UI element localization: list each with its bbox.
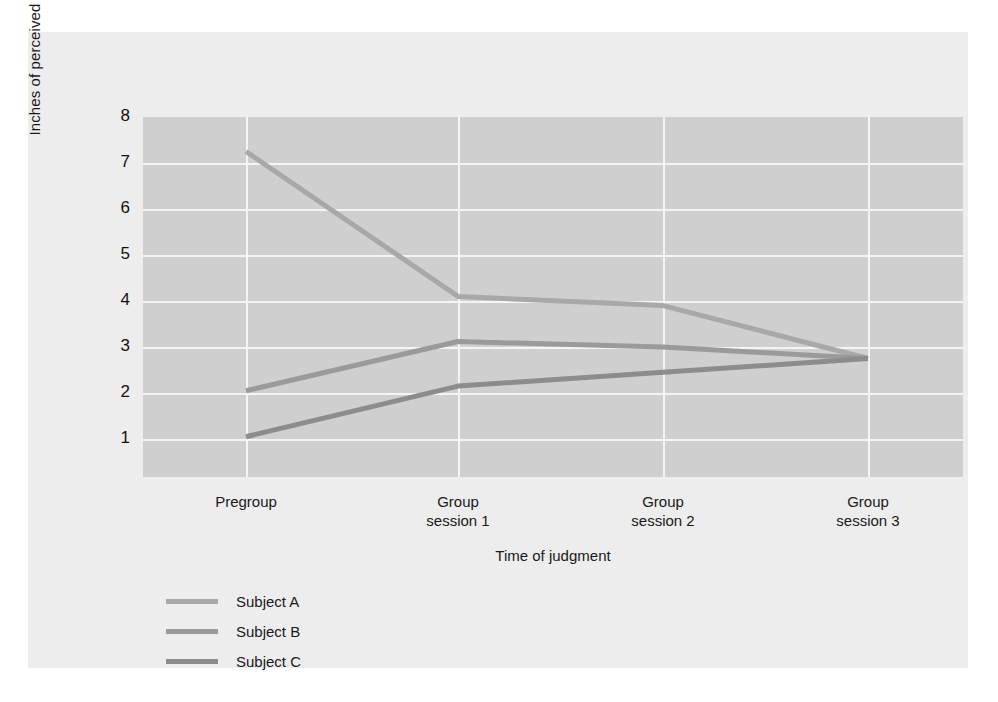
y-axis-tick-label: 8	[90, 106, 130, 126]
x-axis-tick-label-line2: session 1	[358, 511, 558, 530]
x-axis-tick-label-line1: Pregroup	[146, 492, 346, 511]
chart-legend: Subject ASubject BSubject C	[166, 586, 301, 676]
x-axis-tick-label: Groupsession 3	[768, 492, 968, 530]
legend-label: Subject C	[236, 653, 301, 670]
x-axis-tick-label-line1: Group	[768, 492, 968, 511]
series-line	[246, 152, 868, 359]
y-axis-tick-label: 4	[90, 290, 130, 310]
y-axis-tick-label: 7	[90, 152, 130, 172]
legend-label: Subject A	[236, 593, 299, 610]
x-axis-tick-label-line1: Group	[358, 492, 558, 511]
x-axis-tick-label: Groupsession 2	[563, 492, 763, 530]
legend-item: Subject B	[166, 616, 301, 646]
y-axis-tick-label: 6	[90, 198, 130, 218]
legend-swatch	[166, 599, 218, 604]
legend-item: Subject C	[166, 646, 301, 676]
figure-root: Inches of perceived movement 87654321 Pr…	[0, 0, 998, 702]
plot-area	[143, 117, 963, 477]
legend-label: Subject B	[236, 623, 300, 640]
y-axis-tick-label: 5	[90, 244, 130, 264]
y-axis-title: Inches of perceived movement	[26, 0, 43, 182]
legend-swatch	[166, 629, 218, 634]
series-lines	[143, 117, 963, 477]
x-axis-tick-label-line2: session 2	[563, 511, 763, 530]
y-axis-tick-label: 1	[90, 428, 130, 448]
y-axis-tick-label: 3	[90, 336, 130, 356]
legend-swatch	[166, 659, 218, 664]
figure-panel: Inches of perceived movement 87654321 Pr…	[28, 32, 968, 668]
x-axis-tick-label: Groupsession 1	[358, 492, 558, 530]
x-axis-title: Time of judgment	[343, 547, 763, 564]
y-axis-tick-label: 2	[90, 382, 130, 402]
legend-item: Subject A	[166, 586, 301, 616]
x-axis-tick-label-line2: session 3	[768, 511, 968, 530]
x-axis-tick-label-line1: Group	[563, 492, 763, 511]
x-axis-tick-label: Pregroup	[146, 492, 346, 511]
